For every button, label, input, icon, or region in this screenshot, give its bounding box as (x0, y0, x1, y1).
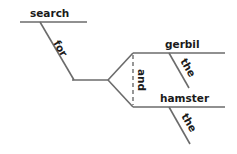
conjunction-word: and (136, 69, 148, 91)
preposition-word: for (51, 38, 70, 59)
object-1-word: gerbil (165, 38, 200, 50)
sentence-diagram: search for and gerbil the hamster the (0, 0, 237, 154)
fork-upper (108, 53, 133, 80)
object-2-word: hamster (160, 92, 210, 104)
fork-lower (108, 80, 133, 107)
verb-word: search (30, 7, 69, 19)
